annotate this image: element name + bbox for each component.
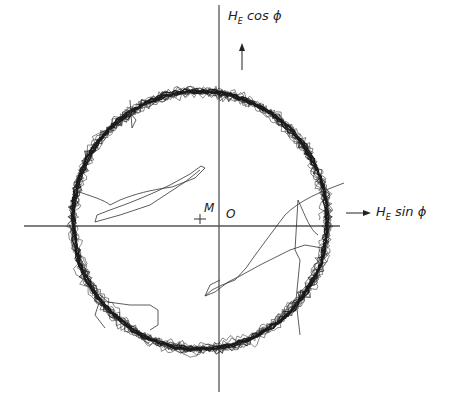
arrow-up-icon: [239, 43, 245, 70]
center-marker-cross: [194, 214, 206, 224]
origin-label: O: [226, 207, 235, 221]
center-marker-label: M: [204, 201, 214, 215]
stray-trace-left: [74, 100, 205, 222]
y-axis-label: HE cos ϕ: [228, 8, 282, 26]
arrow-right-icon: [346, 210, 371, 216]
x-axis-label: HE sin ϕ: [376, 204, 426, 222]
